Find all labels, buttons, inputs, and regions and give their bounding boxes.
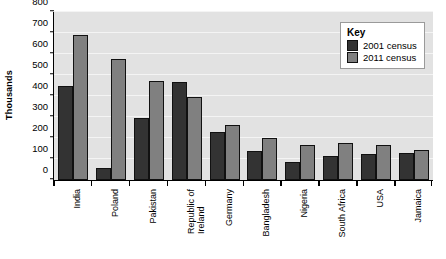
- bar-group: [281, 12, 319, 180]
- x-axis-label: India: [72, 189, 82, 209]
- bar: [172, 82, 187, 180]
- x-axis-label-cell: Poland: [91, 187, 129, 259]
- x-axis-label-cell: Jamaica: [394, 187, 432, 259]
- x-axis-tick: [356, 181, 394, 186]
- bar: [323, 156, 338, 180]
- bar: [187, 97, 202, 180]
- x-axis-tick-mark: [53, 181, 55, 186]
- bar-group: [168, 12, 206, 180]
- x-axis-tick: [167, 181, 205, 186]
- x-axis-tick: [129, 181, 167, 186]
- legend-item-2011: 2011 census: [347, 52, 417, 63]
- x-axis-label-line: South Africa: [337, 189, 347, 238]
- bar: [285, 162, 300, 180]
- legend-label-2011: 2011 census: [363, 52, 416, 63]
- bar-chart: Thousands 0100200300400500600700800 Indi…: [0, 0, 446, 259]
- x-axis-tick-mark: [318, 181, 320, 186]
- bar-group: [244, 12, 282, 180]
- legend-item-2001: 2001 census: [347, 40, 417, 51]
- bar: [111, 59, 126, 180]
- y-axis-tick-label: 400: [32, 80, 54, 91]
- x-axis-label-line: Germany: [224, 189, 234, 226]
- x-axis-label-line: USA: [375, 189, 385, 208]
- x-axis-label-cell: India: [53, 187, 91, 259]
- x-axis-tick: [394, 181, 432, 186]
- y-axis-tick-label: 700: [32, 17, 54, 28]
- legend: Key 2001 census 2011 census: [340, 22, 425, 69]
- bar: [134, 118, 149, 180]
- bar: [225, 125, 240, 180]
- bar: [73, 35, 88, 180]
- x-axis-label: Germany: [224, 189, 234, 226]
- y-axis-tick-label: 500: [32, 59, 54, 70]
- x-axis-tick-mark: [167, 181, 169, 186]
- x-axis-tick-mark: [280, 181, 282, 186]
- legend-title: Key: [347, 27, 417, 38]
- x-axis-label-line: Poland: [110, 189, 120, 217]
- x-axis-tick-mark: [243, 181, 245, 186]
- x-axis-label-line: Pakistan: [148, 189, 158, 224]
- x-axis-label: South Africa: [337, 189, 347, 238]
- y-axis-tick-label: 0: [43, 164, 54, 175]
- x-axis-label-line: Bangladesh: [261, 189, 271, 237]
- x-axis-tick: [280, 181, 318, 186]
- bar-group: [206, 12, 244, 180]
- bar: [300, 145, 315, 180]
- x-axis-tick: [91, 181, 129, 186]
- x-axis-label: Republic ofIreland: [186, 189, 206, 234]
- x-axis-label: Bangladesh: [261, 189, 271, 237]
- x-axis-label-line: Jamaica: [413, 189, 423, 223]
- x-axis-tick: [205, 181, 243, 186]
- bar: [361, 154, 376, 180]
- bar-group: [54, 12, 92, 180]
- y-axis-tick-label: 100: [32, 143, 54, 154]
- x-axis-tick-mark: [129, 181, 131, 186]
- y-axis-tick-label: 600: [32, 38, 54, 49]
- bar: [262, 138, 277, 180]
- x-axis-label-line: India: [72, 189, 82, 209]
- x-axis-label: Jamaica: [413, 189, 423, 223]
- bar: [149, 81, 164, 180]
- bar: [414, 150, 429, 180]
- legend-swatch-2011: [347, 52, 358, 63]
- x-axis-label-cell: USA: [356, 187, 394, 259]
- legend-swatch-2001: [347, 40, 358, 51]
- x-axis-tick: [318, 181, 356, 186]
- bar-group: [92, 12, 130, 180]
- x-axis-label: Nigeria: [299, 189, 309, 218]
- x-axis-label-cell: Nigeria: [280, 187, 318, 259]
- bar: [58, 86, 73, 181]
- y-axis-tick-label: 800: [32, 0, 54, 7]
- x-axis-label-line: Republic of: [186, 189, 196, 234]
- y-axis-tick-label: 300: [32, 101, 54, 112]
- x-axis-label-cell: Pakistan: [129, 187, 167, 259]
- x-axis-label-cell: Bangladesh: [243, 187, 281, 259]
- x-axis-label-cell: South Africa: [318, 187, 356, 259]
- x-axis-tick: [53, 181, 91, 186]
- bar: [376, 145, 391, 180]
- y-axis-title-text: Thousands: [4, 70, 14, 120]
- y-axis-title: Thousands: [0, 55, 18, 135]
- x-axis-labels: IndiaPolandPakistanRepublic ofIrelandGer…: [53, 187, 432, 259]
- bar: [338, 143, 353, 180]
- legend-label-2001: 2001 census: [363, 40, 417, 51]
- x-axis-tick-mark: [394, 181, 396, 186]
- x-axis-label-line: Nigeria: [299, 189, 309, 218]
- bar: [399, 153, 414, 180]
- x-axis-tick-mark: [91, 181, 93, 186]
- x-axis-label-cell: Republic ofIreland: [167, 187, 205, 259]
- x-axis-tick-mark: [356, 181, 358, 186]
- x-axis-label-cell: Germany: [205, 187, 243, 259]
- bar-group: [130, 12, 168, 180]
- x-axis-tick-mark: [431, 181, 433, 186]
- x-axis-tick-mark: [205, 181, 207, 186]
- bar: [96, 168, 111, 180]
- x-axis-label: Poland: [110, 189, 120, 217]
- x-axis-label: Pakistan: [148, 189, 158, 224]
- x-axis-ticks: [53, 181, 432, 186]
- bar: [247, 151, 262, 180]
- x-axis-tick: [243, 181, 281, 186]
- bar: [210, 132, 225, 180]
- x-axis-label: USA: [375, 189, 385, 208]
- y-axis-tick-label: 200: [32, 122, 54, 133]
